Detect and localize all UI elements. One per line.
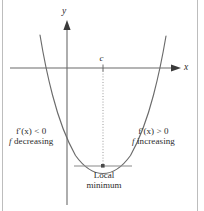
x-axis-arrowhead [171, 64, 181, 71]
increasing-annotation: f′(x) > 0 f increasing [132, 126, 175, 146]
right-behavior-text: f increasing [132, 136, 175, 146]
right-behavior-word: increasing [135, 136, 175, 146]
y-axis-arrowhead [63, 20, 70, 30]
x-axis-label: x [184, 62, 188, 73]
local-minimum-label: Local minimum [66, 170, 142, 190]
left-behavior-text: f decreasing [9, 136, 53, 146]
critical-value-label: c [100, 53, 104, 63]
vertex-point-marker [101, 164, 105, 168]
y-axis-label: y [62, 6, 66, 17]
right-derivative-text: f′(x) > 0 [132, 126, 175, 136]
local-minimum-line-2: minimum [66, 180, 142, 190]
decreasing-annotation: f′(x) < 0 f decreasing [9, 126, 53, 146]
left-derivative-text: f′(x) < 0 [9, 126, 53, 136]
left-behavior-word: decreasing [12, 136, 54, 146]
figure-container: y x c f′(x) < 0 f decreasing f′(x) > 0 f… [0, 0, 204, 211]
local-minimum-line-1: Local [66, 170, 142, 180]
